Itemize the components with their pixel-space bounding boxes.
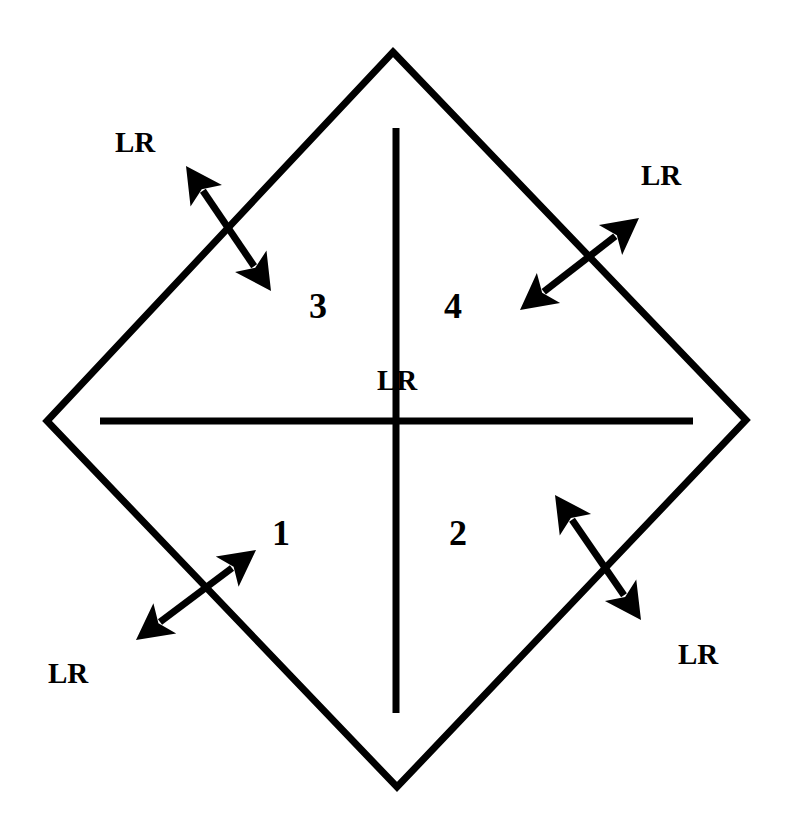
center-lr-label: LR xyxy=(377,364,418,396)
edge-lr-label-top-left: LR xyxy=(115,126,156,158)
quadrant-label-4: 4 xyxy=(444,286,462,326)
double-arrow-icon-top-left xyxy=(186,166,271,291)
double-arrow-icon-bottom-left xyxy=(136,550,256,640)
quadrant-label-2: 2 xyxy=(449,513,467,553)
quadrant-diamond-diagram: 1 2 3 4 LR LR LR LR LR xyxy=(0,0,789,830)
edge-lr-label-bottom-left: LR xyxy=(48,657,89,689)
quadrant-label-3: 3 xyxy=(309,286,327,326)
double-arrow-icon-top-right xyxy=(520,218,639,310)
edge-lr-label-top-right: LR xyxy=(641,159,682,191)
edge-lr-label-bottom-right: LR xyxy=(678,638,719,670)
quadrant-label-1: 1 xyxy=(272,513,290,553)
double-arrow-icon-bottom-right xyxy=(555,495,641,620)
